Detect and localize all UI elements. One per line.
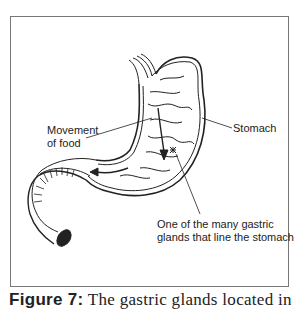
movement-label-line1: Movement — [47, 124, 98, 137]
caption-prefix: Figure 7: — [9, 290, 84, 309]
gastric-glands-label: One of the many gastric glands that line… — [157, 218, 294, 244]
movement-label-line2: of food — [47, 137, 98, 150]
glands-label-line1: One of the many gastric — [157, 218, 294, 231]
glands-label-line2: glands that line the stomach — [157, 231, 294, 244]
stomach-label: Stomach — [233, 122, 276, 135]
caption-text: The gastric glands located in — [88, 290, 292, 309]
movement-of-food-label: Movement of food — [47, 124, 98, 150]
figure-caption: Figure 7: The gastric glands located in — [9, 290, 292, 310]
